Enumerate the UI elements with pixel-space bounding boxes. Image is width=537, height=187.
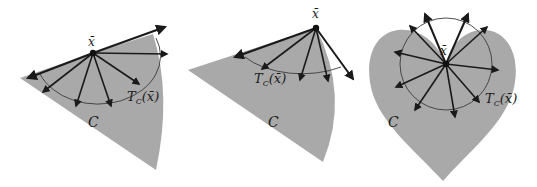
tangent-cone-label: TC(x̄) [485,91,517,108]
point-x-bar [313,25,319,31]
tangent-cone-label: TC(x̄) [254,71,286,88]
point-label: x̄ [312,7,319,21]
point-x-bar [90,50,96,56]
point-x-bar [443,61,449,67]
tangent-cone-figure: x̄ TC(x̄) C x̄ TC(x̄) C [0,0,537,187]
set-label: C [88,114,99,130]
point-label: x̄ [440,44,447,58]
panel-3: x̄ TC(x̄) C [369,14,517,181]
set-label: C [388,114,399,130]
set-label: C [268,114,279,130]
panel-2: x̄ TC(x̄) C [188,7,353,162]
point-label: x̄ [88,35,95,49]
tangent-cone-label: TC(x̄) [127,89,159,106]
panel-1: x̄ TC(x̄) C [20,27,167,170]
